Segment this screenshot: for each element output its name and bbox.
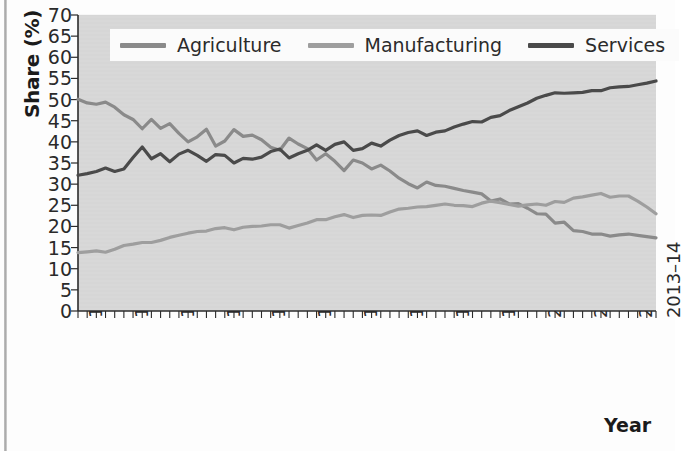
- series-line-agriculture: [78, 99, 656, 238]
- legend-item-services[interactable]: Services: [528, 34, 665, 56]
- legend-item-agriculture[interactable]: Agriculture: [120, 34, 282, 56]
- legend-swatch-icon: [120, 43, 166, 48]
- chart-legend: AgricultureManufacturingServices: [110, 29, 679, 61]
- legend-label: Agriculture: [177, 34, 282, 56]
- legend-label: Services: [585, 34, 665, 56]
- legend-swatch-icon: [308, 43, 354, 48]
- legend-label: Manufacturing: [365, 34, 503, 56]
- legend-item-manufacturing[interactable]: Manufacturing: [308, 34, 503, 56]
- legend-swatch-icon: [528, 43, 574, 48]
- x-tick-label: 2013–14: [663, 218, 684, 318]
